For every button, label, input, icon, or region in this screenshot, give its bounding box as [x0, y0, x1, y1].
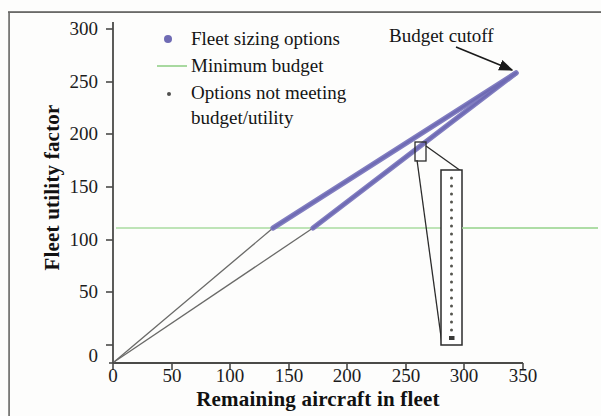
x-tick-350: 350 [500, 365, 546, 387]
x-tick-300: 300 [441, 365, 487, 387]
legend-label-fleet-sizing-options: Fleet sizing options [191, 26, 340, 51]
budget-cutoff-arrow [456, 47, 512, 70]
x-tick-150: 150 [266, 365, 312, 387]
figure-page: 300 250 200 150 100 50 0 0 50 100 150 20… [0, 0, 601, 416]
y-tick-300: 300 [52, 18, 98, 40]
legend-label-options-not-meeting: Options not meeting budget/utility [191, 80, 391, 130]
y-tick-0: 0 [52, 345, 98, 367]
x-tick-0: 0 [90, 365, 136, 387]
x-tick-100: 100 [207, 365, 253, 387]
x-axis-title: Remaining aircraft in fleet [113, 387, 523, 412]
x-tick-50: 50 [149, 365, 195, 387]
options-not-meeting-series [114, 228, 313, 362]
y-axis-ticks [106, 29, 113, 363]
legend-item-options-not-meeting: Options not meeting budget/utility [155, 80, 405, 130]
legend-label-minimum-budget: Minimum budget [191, 53, 323, 78]
chart-legend: Fleet sizing options Minimum budget Opti… [155, 26, 405, 131]
legend-item-fleet-sizing-options: Fleet sizing options [155, 26, 405, 52]
y-axis-title: Fleet utility factor [40, 73, 65, 303]
annotation-budget-cutoff: Budget cutoff [389, 25, 494, 47]
x-tick-200: 200 [324, 365, 370, 387]
legend-dot-large-icon [155, 26, 191, 52]
legend-line-icon [155, 53, 191, 79]
x-tick-250: 250 [383, 365, 429, 387]
legend-dot-small-icon [155, 80, 191, 106]
legend-item-minimum-budget: Minimum budget [155, 53, 405, 79]
